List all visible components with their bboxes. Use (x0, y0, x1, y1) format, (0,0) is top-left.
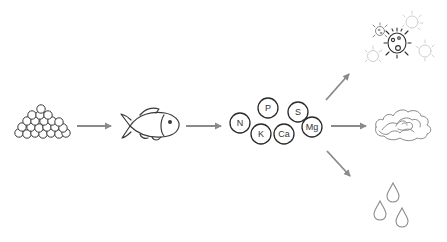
egg-pile-icon (15, 105, 70, 138)
nutrient-label-s: S (295, 107, 301, 117)
nutrient-ca: Ca (274, 124, 294, 144)
nutrient-p: P (258, 98, 278, 118)
arrow-nutrients-to-microbes (326, 74, 349, 100)
nutrient-mg: Mg (302, 117, 322, 137)
nutrient-bubbles: N P K S Ca Mg (230, 98, 322, 144)
nutrient-label-p: P (265, 103, 271, 113)
fish-icon (121, 108, 179, 140)
lettuce-icon (375, 110, 430, 141)
nutrient-n: N (230, 113, 250, 133)
arrow-nutrients-to-water (327, 151, 350, 176)
nutrient-label-mg: Mg (306, 122, 319, 132)
nutrient-label-k: K (258, 129, 264, 139)
water-drops-icon (374, 183, 408, 227)
nutrient-k: K (251, 124, 271, 144)
bacteria-icon (365, 11, 434, 62)
nutrient-label-ca: Ca (278, 129, 290, 139)
nutrient-flow-diagram: N P K S Ca Mg (0, 0, 447, 242)
nutrient-label-n: N (237, 118, 244, 128)
